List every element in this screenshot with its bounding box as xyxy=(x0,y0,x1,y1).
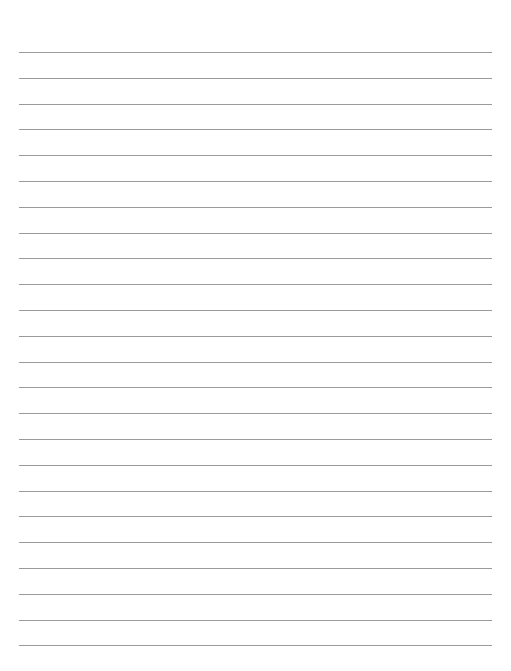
ruled-line xyxy=(19,387,492,388)
ruled-line xyxy=(19,362,492,363)
ruled-line xyxy=(19,78,492,79)
ruled-line xyxy=(19,284,492,285)
ruled-line xyxy=(19,491,492,492)
ruled-line xyxy=(19,568,492,569)
ruled-line xyxy=(19,620,492,621)
ruled-line xyxy=(19,52,492,53)
ruled-line xyxy=(19,233,492,234)
ruled-line xyxy=(19,310,492,311)
lined-paper-page xyxy=(0,0,511,671)
ruled-line xyxy=(19,542,492,543)
ruled-line xyxy=(19,336,492,337)
ruled-line xyxy=(19,207,492,208)
ruled-line xyxy=(19,155,492,156)
ruled-line xyxy=(19,181,492,182)
ruled-line xyxy=(19,129,492,130)
ruled-line xyxy=(19,258,492,259)
ruled-line xyxy=(19,594,492,595)
ruled-line xyxy=(19,413,492,414)
ruled-line xyxy=(19,516,492,517)
ruled-line xyxy=(19,104,492,105)
ruled-line xyxy=(19,465,492,466)
ruled-line xyxy=(19,439,492,440)
ruled-line xyxy=(19,645,492,646)
